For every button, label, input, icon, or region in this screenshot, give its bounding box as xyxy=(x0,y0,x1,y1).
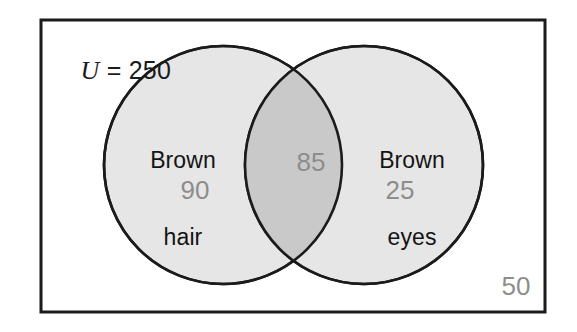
count-outside-sets: 50 xyxy=(486,272,546,301)
universe-equals: = xyxy=(100,56,129,84)
venn-diagram-figure: U = 250 Brown hair Brown eyes 90 85 25 5… xyxy=(0,0,577,332)
count-brown-eyes-only: 25 xyxy=(370,176,430,205)
count-brown-hair-only: 90 xyxy=(165,176,225,205)
set-label-brown-hair-line1: Brown xyxy=(118,148,248,174)
set-label-brown-eyes-line2: eyes xyxy=(352,225,472,251)
count-intersection: 85 xyxy=(281,148,341,177)
set-label-brown-eyes-line1: Brown xyxy=(352,148,472,174)
universe-total: 250 xyxy=(129,56,171,84)
set-label-brown-hair-line2: hair xyxy=(118,225,248,251)
universe-symbol: U xyxy=(81,56,100,85)
